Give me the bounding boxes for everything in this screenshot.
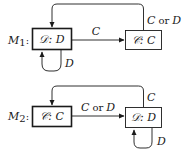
edge-label-m2-forward: CorD [81, 101, 115, 114]
edge-label-m1-back: CorD [147, 14, 181, 27]
edge-label-m1-forward: C [92, 25, 101, 38]
state-label-m1-other: 𝒞: C [132, 34, 156, 47]
machine-m1: M1: 𝒟: D 𝒞: C C CorD D [7, 4, 181, 71]
edge-label-m2-back: C [147, 91, 156, 104]
automata-diagram: M1: 𝒟: D 𝒞: C C CorD D M2: 𝒞: C 𝒟: D [0, 0, 194, 154]
state-label-m1-start: 𝒟: D [39, 33, 64, 46]
state-label-m2-other: 𝒟: D [131, 111, 156, 124]
state-label-m2-start: 𝒞: C [40, 110, 64, 123]
machine-label-m2: M2: [7, 110, 29, 124]
edge-m1-self-loop [42, 50, 61, 71]
edge-label-m1-self-loop: D [64, 57, 74, 70]
edge-m2-self-loop [134, 128, 152, 148]
edge-label-m2-self-loop: D [156, 135, 166, 148]
machine-label-m1: M1: [7, 34, 29, 48]
machine-m2: M2: 𝒞: C 𝒟: D CorD C D [7, 86, 166, 148]
